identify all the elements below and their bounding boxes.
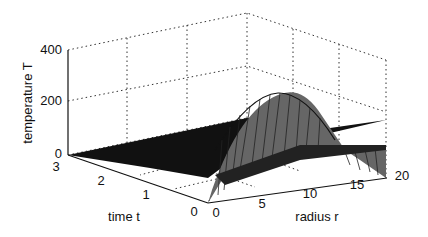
x-tick-15: 15 — [350, 177, 364, 192]
x-tick-10: 10 — [303, 186, 317, 201]
z-tick-200: 200 — [40, 93, 62, 108]
y-tick-3: 3 — [52, 159, 59, 174]
x-axis-label: radius r — [295, 209, 339, 224]
x-tick-20: 20 — [395, 168, 409, 183]
y-tick-0: 0 — [190, 204, 197, 219]
y-tick-2: 2 — [97, 173, 104, 188]
surface-plot: 400 200 0 3 2 1 0 0 5 10 15 20 temperatu… — [0, 0, 428, 237]
x-tick-5: 5 — [258, 196, 265, 211]
z-axis-label: temperature T — [20, 62, 35, 143]
surface-mesh — [68, 92, 386, 203]
z-tick-400: 400 — [40, 42, 62, 57]
y-axis-label: time t — [108, 209, 140, 224]
x-tick-0: 0 — [212, 205, 219, 220]
y-tick-1: 1 — [142, 187, 149, 202]
